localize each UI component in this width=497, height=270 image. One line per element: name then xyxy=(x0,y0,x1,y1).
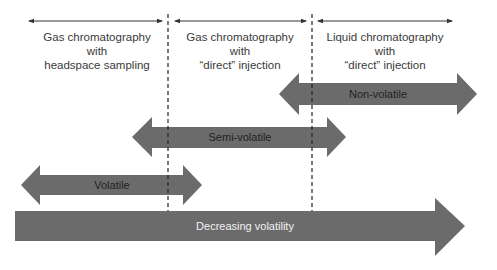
region-line: with xyxy=(30,44,164,58)
semi-volatile-label: Semi-volatile xyxy=(209,131,272,143)
region-line: Gas chromatography xyxy=(172,30,308,44)
region-line: with xyxy=(172,44,308,58)
region-label-gc-headspace: Gas chromatography with headspace sampli… xyxy=(30,30,164,72)
region-label-lc-direct: Liquid chromatography with “direct” inje… xyxy=(316,30,454,72)
decreasing-volatility-label: Decreasing volatility xyxy=(196,220,294,232)
region-line: with xyxy=(316,44,454,58)
region-line: Gas chromatography xyxy=(30,30,164,44)
volatile-label: Volatile xyxy=(94,179,129,191)
region-label-gc-direct: Gas chromatography with “direct” injecti… xyxy=(172,30,308,72)
region-line: Liquid chromatography xyxy=(316,30,454,44)
non-volatile-label: Non-volatile xyxy=(349,88,407,100)
region-line: “direct” injection xyxy=(172,58,308,72)
region-line: “direct” injection xyxy=(316,58,454,72)
region-line: headspace sampling xyxy=(30,58,164,72)
